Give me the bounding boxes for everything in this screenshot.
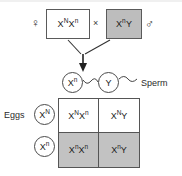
sperm-gamete-2-label: Y: [105, 78, 111, 88]
sperm-tail-middle-icon: [83, 79, 98, 84]
sperm-gamete-1: Xn: [62, 72, 83, 93]
egg-gamete-1: XN: [34, 104, 55, 125]
sperm-gamete-1-label: Xn: [68, 78, 78, 88]
female-branch-line: [68, 40, 81, 54]
egg-gamete-1-label: XN: [39, 110, 50, 120]
sperm-tail-right-icon: [119, 77, 137, 82]
punnett-cell-1-1-genotype: XnY: [111, 145, 127, 155]
egg-gamete-2-label: Xn: [40, 142, 50, 152]
punnett-cell-1-0: XnXn: [59, 133, 99, 167]
sperm-gamete-2: Y: [98, 72, 119, 93]
eggs-label: Eggs: [4, 110, 25, 120]
punnett-cell-0-1: XNY: [99, 99, 139, 133]
male-branch-line: [85, 40, 110, 54]
punnett-cell-0-1-genotype: XNY: [111, 111, 128, 121]
arrow-head-icon: [79, 63, 87, 72]
punnett-square-diagram: ♀ XNXn × XnY ♂ Xn Y Sperm: [0, 0, 182, 176]
punnett-grid: XNXn XNY XnXn XnY: [58, 98, 140, 168]
sperm-label: Sperm: [141, 78, 168, 88]
punnett-cell-0-0: XNXn: [59, 99, 99, 133]
egg-gamete-2: Xn: [34, 136, 55, 157]
punnett-cell-0-0-genotype: XNXn: [68, 111, 88, 121]
punnett-cell-1-0-genotype: XnXn: [69, 145, 88, 155]
punnett-cell-1-1: XnY: [99, 133, 139, 167]
